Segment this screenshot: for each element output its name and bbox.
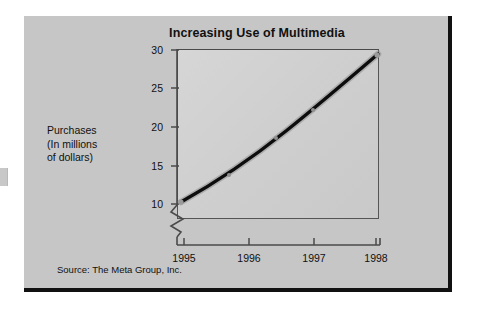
chart-figure-panel: Increasing Use of Multimedia Purchases (… bbox=[24, 16, 448, 288]
y-tick-label-25: 25 bbox=[137, 82, 163, 94]
x-tick-label-1995: 1995 bbox=[167, 252, 201, 264]
data-point-marker bbox=[178, 199, 183, 204]
data-series-halo bbox=[181, 54, 378, 202]
chart-graphics bbox=[24, 16, 448, 288]
source-note: Source: The Meta Group, Inc. bbox=[57, 264, 182, 275]
data-point-marker bbox=[274, 136, 278, 140]
data-point-marker bbox=[227, 173, 231, 177]
x-tick-label-1996: 1996 bbox=[232, 252, 266, 264]
x-tick-label-1997: 1997 bbox=[297, 252, 331, 264]
y-axis-break-zigzag bbox=[171, 205, 183, 237]
y-tick-label-15: 15 bbox=[137, 160, 163, 172]
y-tick-label-10: 10 bbox=[137, 198, 163, 210]
x-tick-label-1998: 1998 bbox=[359, 252, 393, 264]
left-edge-artifact bbox=[0, 168, 8, 186]
data-point-marker bbox=[374, 52, 379, 57]
y-tick-label-30: 30 bbox=[137, 44, 163, 56]
data-point-marker bbox=[311, 108, 315, 112]
y-tick-label-20: 20 bbox=[137, 121, 163, 133]
